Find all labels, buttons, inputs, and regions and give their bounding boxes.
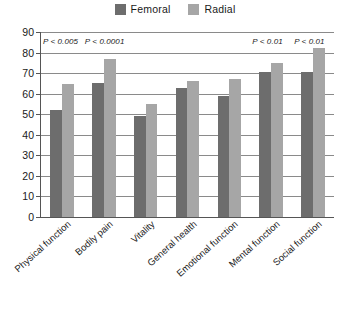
x-category-label-text: Bodily pain [73, 219, 114, 257]
y-tick-label-20: 20 [22, 171, 34, 182]
bar-femoral [176, 88, 188, 218]
bar-radial [187, 81, 199, 217]
y-tick-label-60: 60 [22, 88, 34, 99]
chart-legend: Femoral Radial [0, 4, 350, 15]
x-axis-category-labels: Physical functionBodily painVitalityGene… [40, 219, 333, 305]
legend-item-femoral: Femoral [115, 4, 171, 15]
y-axis-tick-labels: 0102030405060708090 [0, 32, 36, 217]
legend-label-radial: Radial [204, 4, 235, 15]
legend-swatch-femoral [115, 4, 126, 15]
bar-group [134, 32, 157, 217]
x-category-label-text: Vitality [129, 219, 156, 245]
y-tick-label-80: 80 [22, 47, 34, 58]
bar-radial [146, 104, 158, 217]
p-value-label: P < 0.01 [252, 38, 283, 46]
bar-femoral [50, 110, 62, 217]
legend-swatch-radial [188, 4, 199, 15]
p-value-label: P < 0.01 [294, 38, 325, 46]
y-tick-label-10: 10 [22, 191, 34, 202]
y-tick-label-70: 70 [22, 68, 34, 79]
bar-group [50, 32, 73, 217]
bar-series-layer [41, 32, 334, 217]
legend-label-femoral: Femoral [131, 4, 171, 15]
bar-group [176, 32, 199, 217]
p-value-label: P < 0.005 [43, 38, 78, 46]
y-tick-label-50: 50 [22, 109, 34, 120]
y-tick-label-0: 0 [28, 212, 34, 223]
p-value-label: P < 0.0001 [85, 38, 125, 46]
x-category-label-text: Physical function [13, 219, 72, 274]
y-tick-label-90: 90 [22, 27, 34, 38]
bar-chart: Femoral Radial 0102030405060708090 P < 0… [0, 0, 350, 309]
y-tick-0 [36, 217, 41, 218]
y-tick-label-40: 40 [22, 130, 34, 141]
y-tick-label-30: 30 [22, 150, 34, 161]
plot-area: P < 0.005P < 0.0001P < 0.01P < 0.01 [40, 32, 333, 217]
legend-item-radial: Radial [188, 4, 235, 15]
bar-radial [62, 84, 74, 217]
